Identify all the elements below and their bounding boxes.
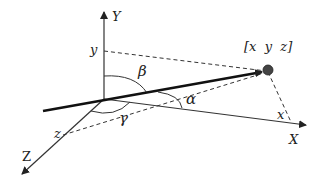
y-projection-dashed bbox=[104, 51, 266, 71]
diagram-graphics bbox=[0, 0, 320, 186]
gamma-label: γ bbox=[119, 111, 128, 126]
point-marker bbox=[263, 65, 273, 75]
x-axis bbox=[104, 99, 306, 125]
alpha-label: α bbox=[186, 92, 196, 107]
point-label: [x y z] bbox=[244, 40, 292, 53]
z-axis-label: Z bbox=[22, 150, 31, 163]
z-projection-label: z bbox=[54, 127, 61, 140]
direction-angles-diagram: Y X Z y x z [x y z] β α γ bbox=[0, 0, 320, 186]
x-projection-label: x bbox=[277, 108, 284, 121]
z-projection-dashed bbox=[63, 73, 264, 135]
z-axis bbox=[22, 99, 104, 174]
y-axis-label: Y bbox=[112, 10, 121, 23]
x-axis-label: X bbox=[289, 133, 298, 146]
alpha-arc bbox=[158, 92, 182, 108]
y-projection-label: y bbox=[90, 43, 97, 56]
beta-label: β bbox=[138, 64, 147, 79]
